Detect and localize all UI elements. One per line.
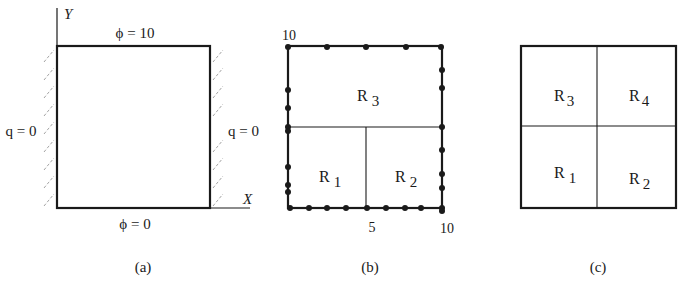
bc-bottom-label: ϕ = 0 [119,216,150,232]
region-label-r1-c: R1 [554,164,576,186]
right-wall-hatching [213,50,223,206]
panel-c: R3 R4 R1 R2 (c) [521,46,676,276]
region-label-r2: R2 [395,168,417,190]
x-axis-label: X [242,191,253,207]
boundary-nodes [285,44,445,214]
region-label-r3: R3 [357,87,379,109]
tick-label-top-left: 10 [282,28,296,43]
left-wall-hatching [44,50,54,206]
region-label-r2-c: R2 [629,170,650,192]
tick-label-bottom-right: 10 [440,221,454,236]
panel-a: Y X ϕ = 10 ϕ = 0 q = 0 q = 0 (a) [6,6,259,276]
bc-right-label: q = 0 [228,123,259,139]
region-label-r3-c: R3 [554,87,574,109]
domain-square-c [521,46,676,208]
caption-a: (a) [135,259,152,276]
panel-b: 10 5 10 R3 R1 R2 (b) [282,28,454,276]
domain-square [57,46,210,208]
y-axis-label: Y [64,6,74,22]
caption-c: (c) [590,259,607,276]
tick-label-bottom-mid: 5 [369,220,376,235]
region-label-r1: R1 [319,168,341,190]
bc-top-label: ϕ = 10 [116,25,155,41]
region-label-r4-c: R4 [629,87,650,109]
figure-canvas: Y X ϕ = 10 ϕ = 0 q = 0 q = 0 (a) [0,0,679,291]
bc-left-label: q = 0 [6,123,37,139]
caption-b: (b) [361,259,379,276]
